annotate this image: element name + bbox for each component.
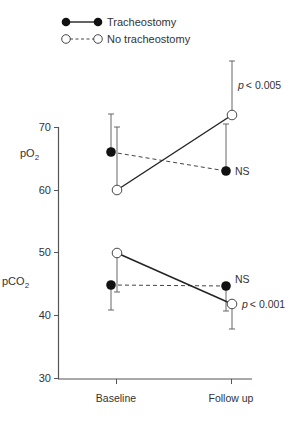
filled-circle-marker-icon — [221, 166, 231, 176]
x-tick-label-follow-up: Follow up — [209, 392, 254, 404]
open-circle-marker-icon — [62, 35, 71, 44]
filled-circle-marker-icon — [106, 147, 116, 157]
po2-series-lines — [111, 115, 232, 190]
ns-annotation: NS — [235, 165, 250, 177]
p-value-annotation: p< 0.005 — [237, 79, 281, 91]
x-tick-label-baseline: Baseline — [96, 392, 136, 404]
pco2-error-bars — [108, 253, 235, 329]
legend-label: No tracheostomy — [107, 33, 191, 45]
po2-axis-label: pO2 — [20, 147, 40, 162]
legend-item-tracheostomy: Tracheostomy — [62, 16, 177, 28]
legend-item-no-tracheostomy: No tracheostomy — [62, 33, 191, 45]
pco2-series-lines — [111, 253, 232, 304]
filled-circle-marker-icon — [62, 18, 71, 27]
legend: Tracheostomy No tracheostomy — [62, 16, 191, 45]
y-tick-label: 40 — [39, 309, 51, 321]
open-circle-marker-icon — [227, 110, 237, 120]
open-circle-marker-icon — [94, 35, 103, 44]
legend-label: Tracheostomy — [107, 16, 177, 28]
y-axis: 70 60 50 40 30 pO2 pCO2 — [2, 121, 59, 384]
data-markers — [106, 110, 237, 309]
filled-circle-marker-icon — [94, 18, 103, 27]
filled-circle-marker-icon — [221, 281, 231, 291]
p-value-annotation: p< 0.001 — [241, 298, 285, 310]
y-tick-label: 50 — [39, 246, 51, 258]
annotations: p< 0.005 NS NS p< 0.001 — [235, 79, 285, 310]
open-circle-marker-icon — [112, 248, 122, 258]
x-axis: Baseline Follow up — [58, 379, 254, 404]
chart: Tracheostomy No tracheostomy 70 60 50 40… — [0, 0, 303, 426]
y-tick-label: 30 — [39, 372, 51, 384]
ns-annotation: NS — [235, 273, 250, 285]
pco2-axis-label: pCO2 — [2, 275, 30, 290]
open-circle-marker-icon — [227, 299, 237, 309]
open-circle-marker-icon — [112, 185, 122, 195]
y-tick-label: 70 — [39, 121, 51, 133]
filled-circle-marker-icon — [106, 280, 116, 290]
y-tick-label: 60 — [39, 184, 51, 196]
